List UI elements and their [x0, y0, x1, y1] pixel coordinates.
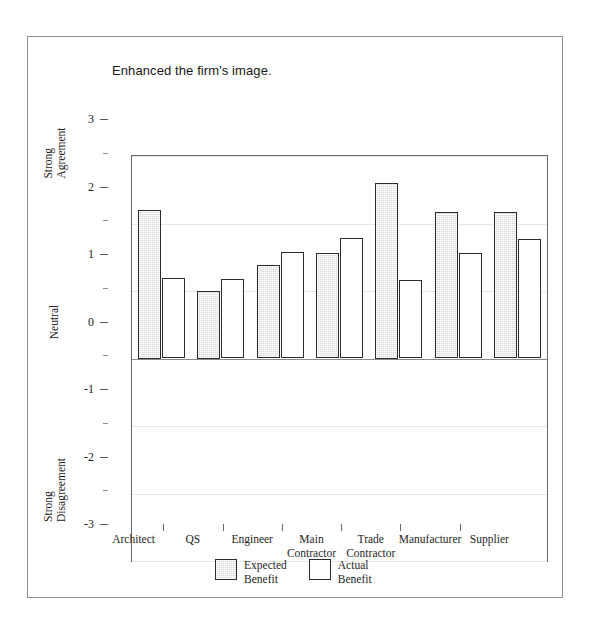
bar-actual-5 [459, 253, 482, 358]
x-tick-label-6: Supplier [446, 533, 532, 547]
x-tick [282, 524, 283, 531]
bar-actual-6 [518, 239, 541, 358]
legend-swatch-actual [309, 559, 331, 580]
x-tick [223, 524, 224, 531]
chart-legend: Expected BenefitActual Benefit [215, 559, 372, 586]
bar-actual-2 [281, 252, 304, 359]
grid-line [132, 156, 547, 157]
x-tick [341, 524, 342, 531]
bar-expected-4 [375, 183, 398, 359]
y-tick-label: -2 [70, 449, 94, 464]
y-tick [100, 322, 108, 323]
y-tick-minor [103, 490, 108, 491]
y-tick-minor [103, 423, 108, 424]
y-tick [100, 187, 108, 188]
legend-item-expected: Expected Benefit [215, 559, 287, 586]
bar-expected-0 [138, 210, 161, 359]
bar-expected-3 [316, 253, 339, 359]
chart-title: Enhanced the firm's image. [112, 63, 272, 78]
x-tick [400, 524, 401, 531]
legend-item-actual: Actual Benefit [309, 559, 372, 586]
legend-label-expected: Expected Benefit [244, 559, 287, 586]
bar-expected-1 [197, 291, 220, 359]
bar-actual-0 [162, 278, 185, 358]
bar-expected-6 [494, 212, 517, 358]
bar-actual-1 [221, 279, 244, 359]
y-tick-label: 3 [70, 112, 94, 127]
y-tick [100, 524, 108, 525]
y-tick [100, 457, 108, 458]
y-tick-minor [103, 288, 108, 289]
y-tick-label: -1 [70, 382, 94, 397]
x-tick [460, 524, 461, 531]
legend-swatch-expected [215, 559, 237, 580]
plot-area [131, 155, 548, 562]
y-tick-label: 1 [70, 247, 94, 262]
figure-frame: Enhanced the firm's image. 3210-1-2-3Str… [27, 36, 563, 598]
bar-actual-4 [399, 280, 422, 359]
y-tick-minor [103, 220, 108, 221]
bar-expected-5 [435, 212, 458, 358]
legend-label-actual: Actual Benefit [338, 559, 372, 586]
y-anchor-label-0: StrongAgreement [42, 127, 68, 178]
y-tick [100, 119, 108, 120]
y-tick-label: 2 [70, 179, 94, 194]
bar-actual-3 [340, 238, 363, 358]
zero-baseline [132, 359, 547, 360]
plot-inner [132, 156, 547, 561]
grid-line [132, 224, 547, 225]
grid-line [132, 426, 547, 427]
y-tick-label: 0 [70, 314, 94, 329]
y-anchor-label-2: StrongDisagreement [42, 458, 68, 522]
bar-expected-2 [257, 265, 280, 358]
y-tick [100, 254, 108, 255]
y-tick [100, 389, 108, 390]
y-tick-minor [103, 355, 108, 356]
x-tick [163, 524, 164, 531]
y-anchor-label-1: Neutral [48, 304, 61, 338]
y-tick-minor [103, 153, 108, 154]
grid-line [132, 494, 547, 495]
y-tick-label: -3 [70, 517, 94, 532]
